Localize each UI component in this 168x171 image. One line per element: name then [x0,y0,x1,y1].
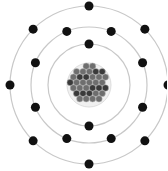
electron [140,136,149,145]
electron [29,25,38,34]
electron [62,134,71,143]
electron [6,81,15,90]
electron [31,58,40,67]
electron [85,2,94,11]
electron [85,160,94,169]
electron [85,40,94,49]
electron [138,103,147,112]
nucleon [77,96,83,102]
atom-diagram [0,0,167,171]
electron [140,25,149,34]
electron [29,136,38,145]
nucleon [89,96,95,102]
nucleus [67,63,111,107]
electron [85,122,94,131]
electron [62,27,71,36]
nucleon [83,96,89,102]
electron [107,134,116,143]
electron [138,58,147,67]
nucleon [96,96,102,102]
electron [31,103,40,112]
electron [107,27,116,36]
electron [164,81,168,90]
